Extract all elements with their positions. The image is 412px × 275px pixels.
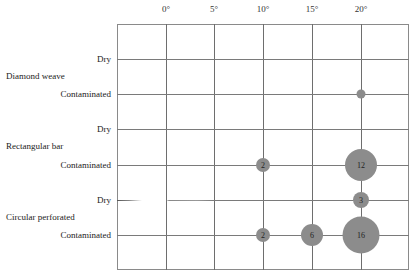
bubble-cp-contaminated-10: 2 (256, 228, 270, 242)
row-label-rb-dry: Dry (97, 124, 111, 134)
group-label-rectangular-bar: Rectangular bar (6, 141, 63, 151)
row-label-cp-contaminated: Contaminated (61, 230, 112, 240)
x-tick-10: 10° (257, 4, 270, 14)
bubble-dw-contaminated-20 (357, 90, 366, 99)
bubble-chart: 0° 5° 10° 15° 20° Diamond weave Rectangu… (0, 0, 412, 275)
x-tick-0: 0° (162, 4, 170, 14)
row-label-rb-contaminated: Contaminated (61, 160, 112, 170)
x-tick-20: 20° (355, 4, 368, 14)
row-label-dw-dry: Dry (97, 54, 111, 64)
grid-hline-dw-dry (117, 59, 409, 60)
bubble-cp-dry-20: 3 (353, 192, 369, 208)
group-label-diamond-weave: Diamond weave (6, 71, 65, 81)
row-label-dw-contaminated: Contaminated (61, 89, 112, 99)
grid-vline-0 (166, 24, 167, 270)
x-tick-15: 15° (306, 4, 319, 14)
x-tick-5: 5° (210, 4, 218, 14)
group-label-circular-perforated: Circular perforated (6, 212, 75, 222)
grid-vline-5 (214, 24, 215, 270)
grid-hline-rb-dry (117, 129, 409, 130)
bubble-rb-contaminated-20: 12 (345, 149, 377, 181)
row-label-cp-dry: Dry (97, 195, 111, 205)
bubble-rb-contaminated-10: 2 (256, 158, 270, 172)
bubble-cp-contaminated-20: 16 (343, 217, 380, 254)
bubble-cp-contaminated-15: 6 (301, 224, 323, 246)
